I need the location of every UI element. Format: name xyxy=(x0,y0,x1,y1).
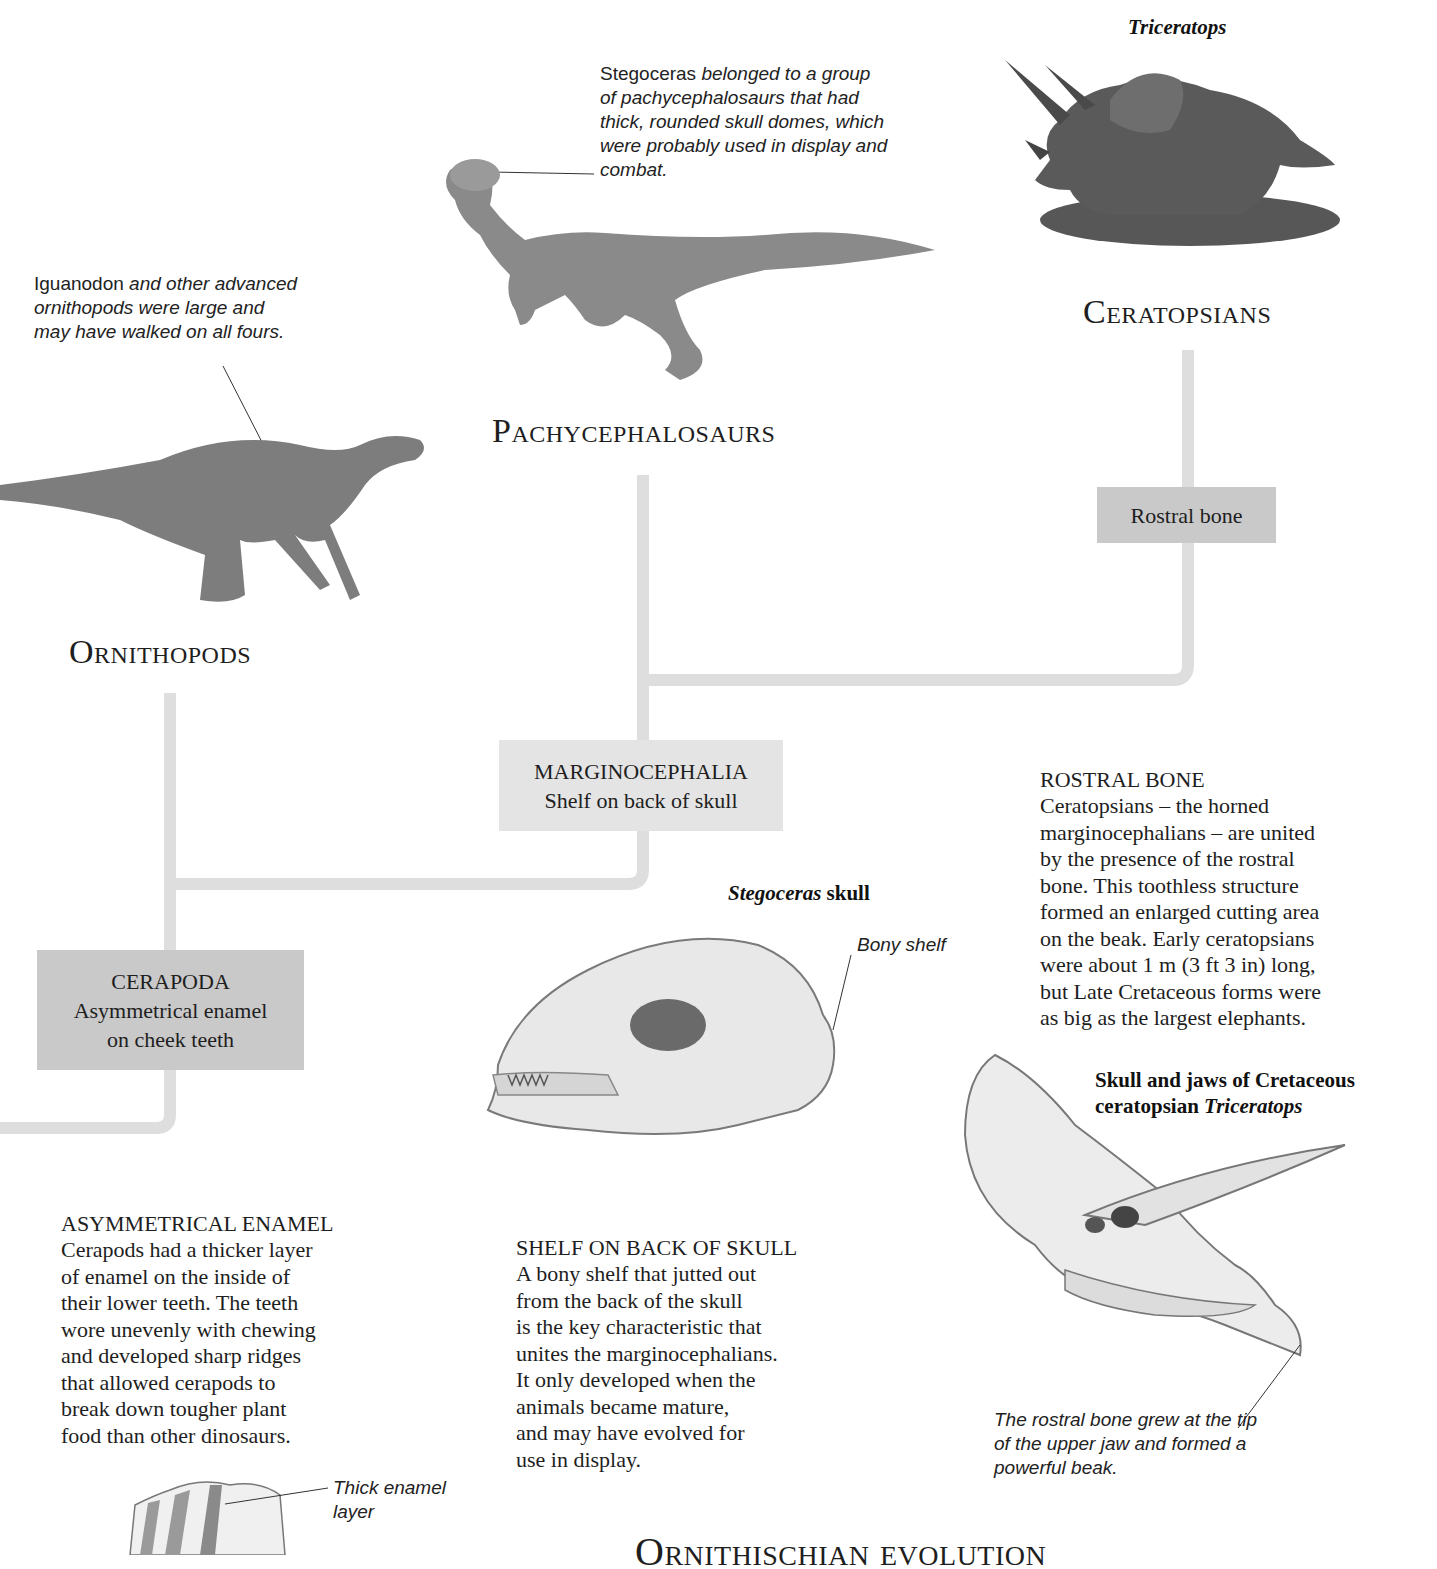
thick-enamel-label: Thick enamel layer xyxy=(333,1476,446,1524)
page-title: Ornithischian evolution xyxy=(635,1528,1046,1569)
